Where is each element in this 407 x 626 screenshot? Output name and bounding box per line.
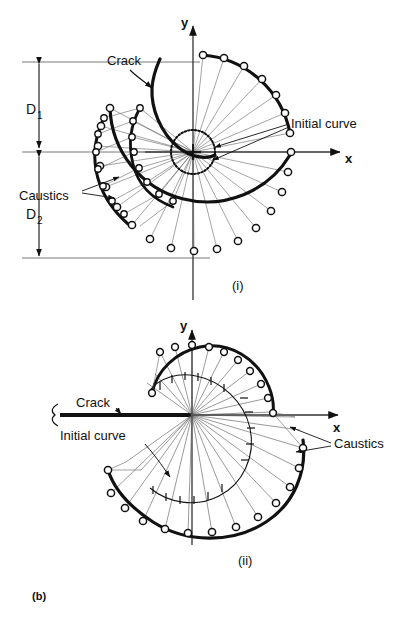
caustic-node bbox=[128, 221, 135, 228]
caustic-node bbox=[258, 75, 265, 82]
y-axis-label-ii: y bbox=[180, 318, 188, 333]
dimension-D1-sub: 1 bbox=[37, 110, 43, 121]
caustic-node bbox=[252, 224, 259, 231]
caustic-node bbox=[131, 149, 137, 155]
caustic-node bbox=[286, 483, 293, 490]
crack-label-i: Crack bbox=[107, 53, 141, 68]
panel-ii: y x bbox=[52, 318, 384, 568]
x-axis-label-ii: x bbox=[333, 420, 341, 435]
figure-group-label: (b) bbox=[32, 590, 46, 602]
caustics-label-ii: Caustics bbox=[334, 436, 384, 451]
initial-curve-label-i: Initial curve bbox=[291, 116, 357, 131]
caustic-node bbox=[107, 489, 114, 496]
caustic-node bbox=[272, 91, 279, 98]
caustic-node bbox=[272, 499, 279, 506]
caustic-node bbox=[265, 395, 272, 402]
dimension-D1-base: D bbox=[26, 101, 36, 117]
initial-curve-leaders-i bbox=[213, 124, 289, 160]
panel-ii-caption: (ii) bbox=[238, 553, 252, 568]
caustic-node bbox=[281, 109, 288, 116]
caustic-node bbox=[199, 51, 206, 58]
caustic-node bbox=[235, 357, 242, 364]
figure-svg: D 1 D 2 y x bbox=[0, 0, 407, 626]
caustic-node bbox=[149, 390, 156, 397]
crack-label-ii: Crack bbox=[76, 395, 110, 410]
caustic-node-group-inner-i bbox=[129, 105, 176, 204]
caustics-leaders-ii bbox=[290, 427, 331, 452]
crack-curve-i bbox=[152, 59, 215, 157]
dimension-label-D2: D 2 bbox=[26, 206, 43, 226]
caustic-node bbox=[121, 504, 128, 511]
caustic-node bbox=[121, 211, 127, 217]
caustic-node bbox=[232, 523, 239, 530]
caustic-node bbox=[101, 115, 107, 121]
caustic-node bbox=[170, 198, 176, 204]
y-axis-label-i: y bbox=[181, 15, 189, 30]
caustic-node bbox=[130, 118, 136, 124]
caustic-node bbox=[295, 464, 302, 471]
caustic-node bbox=[129, 134, 135, 140]
crack-squiggle-ii bbox=[52, 404, 58, 426]
caustic-node bbox=[104, 466, 111, 473]
caustics-label-i: Caustics bbox=[19, 188, 69, 203]
caustic-node bbox=[109, 198, 115, 204]
caustic-node bbox=[247, 368, 254, 375]
dimension-label-D1: D 1 bbox=[26, 101, 43, 121]
radial-rays-inner-i bbox=[132, 108, 193, 201]
caustic-node bbox=[95, 166, 101, 172]
panel-i: D 1 D 2 y x bbox=[19, 15, 357, 300]
initial-curve-ii bbox=[150, 375, 251, 503]
caustic-node bbox=[254, 513, 261, 520]
caustic-node bbox=[184, 529, 191, 536]
caustic-node bbox=[156, 191, 162, 197]
caustic-arc-upper-ii bbox=[152, 346, 273, 413]
caustic-node bbox=[220, 54, 227, 61]
crack-leader-i bbox=[130, 70, 152, 88]
caustic-node bbox=[157, 349, 164, 356]
caustic-node bbox=[213, 245, 220, 252]
caustic-node bbox=[167, 244, 174, 251]
caustic-node bbox=[106, 104, 113, 111]
caustic-node bbox=[189, 342, 196, 349]
caustic-node bbox=[161, 525, 168, 532]
caustic-node bbox=[93, 149, 99, 155]
dimension-D2-base: D bbox=[26, 206, 36, 222]
caustic-node bbox=[287, 148, 294, 155]
caustic-node bbox=[267, 207, 274, 214]
caustic-node bbox=[172, 344, 179, 351]
x-axis-label-i: x bbox=[345, 151, 353, 166]
caustic-node bbox=[270, 410, 277, 417]
caustic-node-group-left-i bbox=[93, 115, 127, 217]
caustic-node bbox=[234, 237, 241, 244]
panel-i-caption: (i) bbox=[232, 278, 244, 293]
caustic-node bbox=[97, 122, 104, 129]
caustic-node bbox=[146, 235, 153, 242]
figure-container: D 1 D 2 y x bbox=[0, 0, 407, 626]
dimension-D2-sub: 2 bbox=[37, 215, 43, 226]
caustic-arc-lower-ii bbox=[108, 440, 304, 538]
initial-curve-leader-ii bbox=[145, 444, 170, 477]
caustic-node bbox=[284, 168, 291, 175]
initial-curve-label-ii: Initial curve bbox=[60, 428, 126, 443]
caustic-node bbox=[278, 188, 285, 195]
caustic-node bbox=[95, 131, 101, 137]
caustic-node bbox=[144, 179, 150, 185]
caustic-node bbox=[258, 381, 265, 388]
caustic-node bbox=[190, 247, 197, 254]
caustic-node bbox=[208, 528, 215, 535]
caustic-node bbox=[221, 349, 228, 356]
caustic-node bbox=[113, 203, 120, 210]
caustic-node bbox=[137, 105, 143, 111]
caustic-node bbox=[136, 165, 142, 171]
caustic-node bbox=[206, 344, 213, 351]
caustic-node bbox=[240, 62, 247, 69]
caustic-node bbox=[139, 517, 146, 524]
